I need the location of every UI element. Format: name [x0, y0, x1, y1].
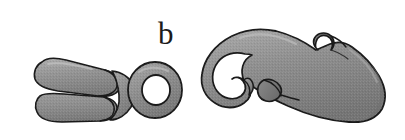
figure-illustration — [0, 0, 405, 140]
snap-hook — [202, 29, 386, 122]
forked-clevis-connector — [34, 58, 182, 122]
eyelet-hole — [142, 75, 170, 105]
lower-prong — [36, 93, 118, 122]
figure-panel: b — [0, 0, 405, 140]
panel-label-b: b — [158, 18, 174, 49]
eyelet-ring — [128, 62, 182, 118]
upper-prong — [34, 58, 120, 96]
